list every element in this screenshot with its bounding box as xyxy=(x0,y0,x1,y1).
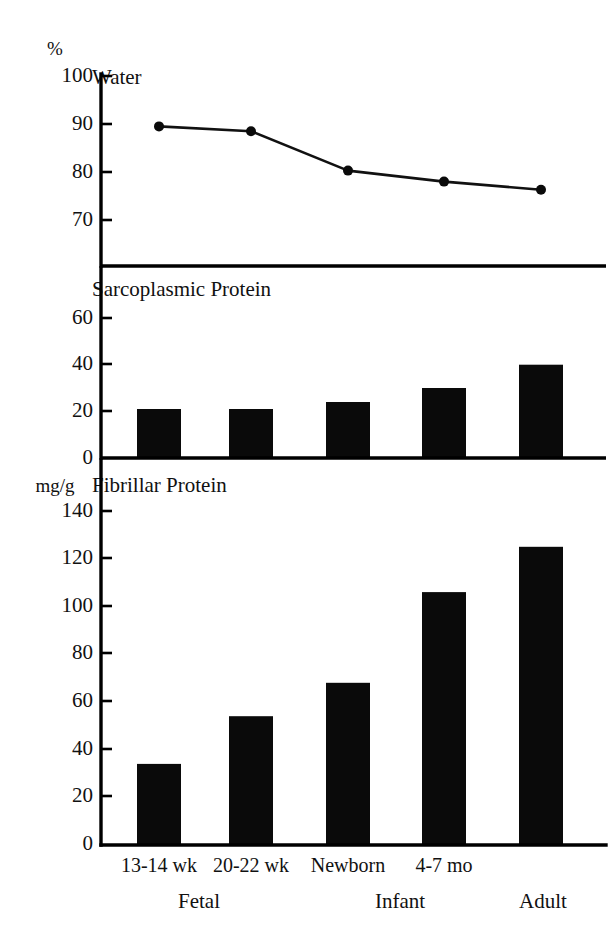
sarcoplasmic-bar xyxy=(137,409,181,458)
sarcoplasmic-bar xyxy=(422,388,466,458)
fibrillar-bar xyxy=(229,716,273,845)
sarcoplasmic-tick-label-20: 20 xyxy=(72,398,93,422)
fibrillar-tick-label-20: 20 xyxy=(72,783,93,807)
water-data-point xyxy=(154,121,164,131)
x-axis-group-labels: Fetal Infant Adult xyxy=(178,889,567,913)
water-unit-label: % xyxy=(47,38,63,59)
water-data-point xyxy=(439,177,449,187)
fibrillar-bars xyxy=(137,547,563,845)
x-label-2: Newborn xyxy=(311,854,385,876)
fibrillar-bar xyxy=(137,764,181,845)
water-series-markers xyxy=(154,121,546,194)
fibrillar-panel-title: Fibrillar Protein xyxy=(92,473,227,497)
fibrillar-unit-label: mg/g xyxy=(35,475,75,496)
sarcoplasmic-tick-label-40: 40 xyxy=(72,351,93,375)
water-series-line xyxy=(159,126,541,189)
sarcoplasmic-panel-title: Sarcoplasmic Protein xyxy=(92,277,272,301)
fibrillar-bar xyxy=(422,592,466,845)
fibrillar-tick-label-80: 80 xyxy=(72,640,93,664)
group-label-infant: Infant xyxy=(375,889,425,913)
sarcoplasmic-bar xyxy=(326,402,370,458)
x-label-1: 20-22 wk xyxy=(213,854,289,876)
panel-water: % Water 100 90 80 70 xyxy=(47,38,546,266)
chart-canvas: % Water 100 90 80 70 Sarcoplasmic Protei… xyxy=(0,0,608,936)
group-label-adult: Adult xyxy=(519,889,567,913)
water-tick-label-70: 70 xyxy=(72,207,93,231)
group-label-fetal: Fetal xyxy=(178,889,220,913)
fibrillar-tick-label-40: 40 xyxy=(72,736,93,760)
x-axis-category-labels: 13-14 wk 20-22 wk Newborn 4-7 mo xyxy=(121,854,473,876)
fibrillar-bar xyxy=(326,683,370,845)
fibrillar-tick-label-0: 0 xyxy=(83,831,94,855)
sarcoplasmic-bar xyxy=(229,409,273,458)
sarcoplasmic-tick-label-60: 60 xyxy=(72,305,93,329)
water-data-point xyxy=(343,166,353,176)
x-label-0: 13-14 wk xyxy=(121,854,197,876)
x-label-3: 4-7 mo xyxy=(415,854,472,876)
water-tick-label-90: 90 xyxy=(72,111,93,135)
water-data-point xyxy=(246,126,256,136)
fibrillar-bar xyxy=(519,547,563,845)
water-data-point xyxy=(536,185,546,195)
fibrillar-tick-label-140: 140 xyxy=(62,498,94,522)
fibrillar-tick-label-100: 100 xyxy=(62,593,94,617)
water-tick-label-80: 80 xyxy=(72,159,93,183)
figure-root: % Water 100 90 80 70 Sarcoplasmic Protei… xyxy=(0,0,608,936)
panel-sarcoplasmic: Sarcoplasmic Protein 60 40 20 0 xyxy=(72,268,606,469)
water-tick-label-100: 100 xyxy=(62,63,94,87)
fibrillar-tick-label-60: 60 xyxy=(72,688,93,712)
sarcoplasmic-bar xyxy=(519,365,563,458)
sarcoplasmic-bars xyxy=(137,365,563,458)
fibrillar-tick-label-120: 120 xyxy=(62,545,94,569)
sarcoplasmic-tick-label-0: 0 xyxy=(83,445,94,469)
panel-fibrillar: mg/g Fibrillar Protein 140 120 100 80 60… xyxy=(35,460,606,855)
